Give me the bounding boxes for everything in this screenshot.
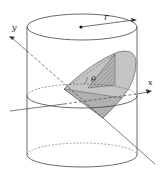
theta-label: θ: [91, 76, 96, 84]
x-axis-front: [10, 104, 64, 111]
radius-label: r: [104, 13, 108, 22]
bottom-ellipse-front: [27, 155, 137, 167]
cylinder-wedge-diagram: [0, 0, 162, 180]
radius-arrow-icon: [131, 18, 137, 22]
y-axis-front: [103, 118, 155, 164]
y-axis-label: y: [12, 24, 17, 32]
bottom-ellipse-back: [27, 143, 137, 155]
x-axis-arrow-icon: [146, 89, 152, 94]
x-axis-outer: [137, 92, 148, 94]
y-axis-outer: [12, 38, 27, 51]
x-axis-label: x: [148, 79, 153, 87]
